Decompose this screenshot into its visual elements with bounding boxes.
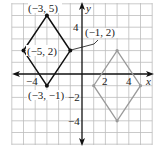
gray-vertex-bottom	[116, 119, 119, 122]
tick-y-4: 4	[73, 21, 79, 33]
gray-vertex-top	[116, 49, 119, 52]
black-vertex-right	[68, 49, 72, 53]
label-top-vertex: (−3, 5)	[28, 2, 58, 15]
tick-y-neg4: −4	[68, 115, 80, 127]
label-right-vertex: (−1, 2)	[85, 26, 115, 39]
tick-x-neg4: −4	[26, 75, 38, 87]
tick-x-4: 4	[126, 75, 132, 87]
gray-vertex-left	[92, 84, 95, 87]
label-left-vertex: (−5, 2)	[27, 45, 57, 58]
black-vertex-top	[45, 14, 49, 18]
tick-x-2: 2	[102, 75, 108, 87]
gray-vertex-right	[139, 84, 142, 87]
label-bottom-vertex: (−3, −1)	[28, 89, 65, 102]
y-axis-label: y	[85, 2, 91, 14]
tick-y-neg2: −2	[68, 91, 80, 103]
black-vertex-left	[22, 49, 26, 53]
x-axis-label: x	[145, 75, 151, 87]
coordinate-plane: (−3, 5) (−1, 2) (−5, 2) (−3, −1) −4 2 4 …	[0, 0, 157, 148]
black-vertex-bottom	[45, 84, 49, 88]
